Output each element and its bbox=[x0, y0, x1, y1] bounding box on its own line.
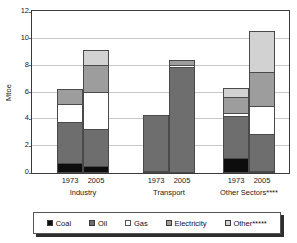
legend-label: Other***** bbox=[233, 219, 266, 228]
y-tick-label: 8 bbox=[7, 61, 29, 69]
legend-item-oil[interactable]: Oil bbox=[89, 219, 107, 228]
gridline bbox=[32, 118, 289, 119]
x-group-label-other-sectors: Other Sectors**** bbox=[199, 188, 297, 197]
legend-swatch-gas-icon bbox=[125, 220, 131, 226]
gridline bbox=[32, 38, 289, 39]
legend-item-gas[interactable]: Gas bbox=[125, 219, 147, 228]
x-group-label-industry: Industry bbox=[33, 188, 133, 197]
legend-swatch-electricity-icon bbox=[166, 220, 172, 226]
y-tick-label: 10 bbox=[7, 34, 29, 42]
legend-item-electricity[interactable]: Electricity bbox=[166, 219, 207, 228]
legend-label: Electricity bbox=[175, 219, 207, 228]
legend-label: Coal bbox=[56, 219, 71, 228]
plot-area bbox=[31, 10, 290, 174]
chart-legend: CoalOilGasElectricityOther***** bbox=[33, 212, 281, 234]
legend-swatch-coal-icon bbox=[47, 220, 53, 226]
x-tick-year: 2005 bbox=[79, 176, 113, 185]
legend-swatch-oil-icon bbox=[89, 220, 95, 226]
x-axis-labels: 197320051973200519732005IndustryTranspor… bbox=[31, 176, 290, 204]
legend-swatch-other-icon bbox=[225, 220, 231, 226]
gridline bbox=[32, 65, 289, 66]
gridline bbox=[32, 145, 289, 146]
y-tick-label: 4 bbox=[7, 114, 29, 122]
legend-item-coal[interactable]: Coal bbox=[47, 219, 71, 228]
legend-label: Oil bbox=[98, 219, 107, 228]
y-tick-label: 12 bbox=[7, 7, 29, 15]
legend-item-other[interactable]: Other***** bbox=[225, 219, 267, 228]
gridline bbox=[32, 92, 289, 93]
x-tick-year: 2005 bbox=[165, 176, 199, 185]
legend-label: Gas bbox=[134, 219, 148, 228]
x-tick-year: 2005 bbox=[245, 176, 279, 185]
y-tick-label: 6 bbox=[7, 88, 29, 96]
y-tick-label: 0 bbox=[7, 168, 29, 176]
y-axis-ticks: 024681012 bbox=[3, 10, 29, 174]
y-tick-label: 2 bbox=[7, 141, 29, 149]
stacked-bar-chart: Mtoe 024681012 197320051973200519732005I… bbox=[0, 0, 297, 243]
